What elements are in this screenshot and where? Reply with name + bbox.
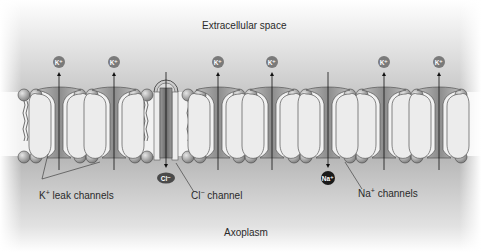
svg-text:K⁺: K⁺ bbox=[268, 59, 277, 66]
k-leak-channels-label: K+ leak channels bbox=[39, 189, 114, 201]
na-channels-label: Na+ channels bbox=[358, 187, 418, 199]
svg-text:K⁺: K⁺ bbox=[380, 59, 389, 66]
svg-text:K⁺: K⁺ bbox=[110, 59, 119, 66]
axoplasm-label: Axoplasm bbox=[224, 227, 268, 238]
svg-text:Cl⁻: Cl⁻ bbox=[161, 175, 172, 182]
svg-text:Na⁺: Na⁺ bbox=[322, 175, 334, 182]
svg-text:K⁺: K⁺ bbox=[55, 59, 64, 66]
membrane-svg: K⁺ K⁺ K⁺ K⁺ K⁺ K⁺ Na⁺ Cl⁻ bbox=[0, 0, 481, 252]
svg-text:K⁺: K⁺ bbox=[214, 59, 223, 66]
svg-text:K⁺: K⁺ bbox=[435, 59, 444, 66]
membrane-diagram: K⁺ K⁺ K⁺ K⁺ K⁺ K⁺ Na⁺ Cl⁻ bbox=[0, 0, 481, 252]
extracellular-space-label: Extracellular space bbox=[202, 20, 286, 31]
cl-channel-label: Cl− channel bbox=[191, 189, 242, 201]
